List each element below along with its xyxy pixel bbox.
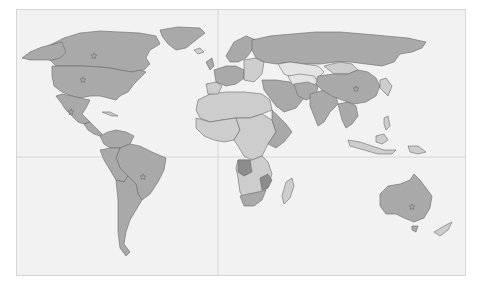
region-korea-japan[interactable] bbox=[380, 78, 392, 96]
region-madagascar[interactable] bbox=[282, 178, 294, 204]
region-uk[interactable] bbox=[206, 58, 214, 70]
region-alaska[interactable] bbox=[22, 42, 66, 60]
region-tasmania[interactable] bbox=[412, 226, 418, 232]
region-philippines[interactable] bbox=[384, 116, 390, 130]
region-australia[interactable] bbox=[380, 174, 432, 222]
region-cuba[interactable] bbox=[102, 112, 118, 116]
region-eastern-europe[interactable] bbox=[244, 58, 264, 82]
region-mexico[interactable] bbox=[56, 94, 90, 124]
region-central-africa[interactable] bbox=[234, 114, 276, 160]
region-new-zealand[interactable] bbox=[434, 222, 452, 236]
region-new-guinea[interactable] bbox=[408, 146, 426, 154]
region-indonesia[interactable] bbox=[348, 140, 396, 154]
region-scandinavia[interactable] bbox=[226, 36, 256, 62]
region-greenland[interactable] bbox=[160, 27, 205, 50]
region-west-africa[interactable] bbox=[196, 118, 240, 142]
land-masses bbox=[22, 27, 452, 256]
region-iceland[interactable] bbox=[194, 48, 204, 54]
region-central-america[interactable] bbox=[84, 122, 102, 136]
region-western-europe[interactable] bbox=[214, 66, 244, 86]
world-map[interactable] bbox=[0, 0, 481, 285]
region-southeast-asia[interactable] bbox=[338, 102, 358, 128]
region-russia[interactable] bbox=[252, 32, 426, 66]
region-iberia[interactable] bbox=[206, 82, 222, 94]
region-borneo[interactable] bbox=[376, 134, 388, 144]
